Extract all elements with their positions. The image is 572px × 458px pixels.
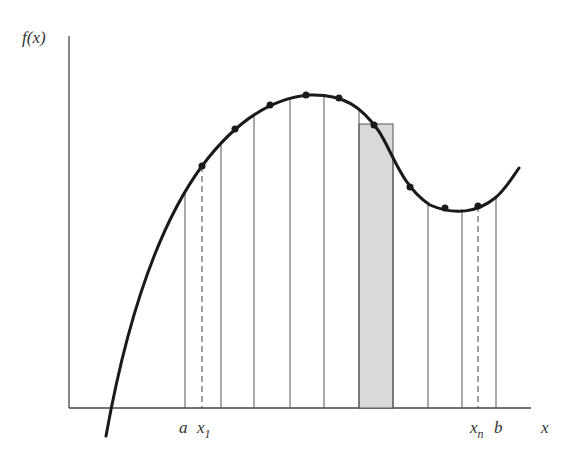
partition-lines [185, 95, 496, 408]
tick-label-x1: x1 [197, 418, 211, 438]
function-curve [106, 95, 519, 436]
y-axis-label: f(x) [22, 28, 46, 48]
tick-label-xn: xn [470, 418, 484, 438]
highlighted-rectangle [359, 124, 393, 408]
tick-xn-base: x [470, 418, 478, 437]
tick-label-a: a [179, 418, 188, 438]
riemann-diagram [0, 0, 572, 458]
dashed-lines [202, 166, 478, 408]
sample-points [199, 92, 482, 212]
tick-xn-subscript: n [478, 427, 484, 441]
x-axis-label: x [541, 418, 549, 438]
tick-label-b: b [494, 418, 503, 438]
tick-x1-subscript: 1 [205, 427, 211, 441]
tick-x1-base: x [197, 418, 205, 437]
